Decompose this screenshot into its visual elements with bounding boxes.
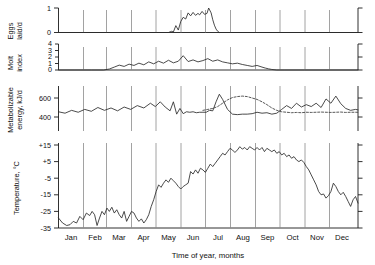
month-label-may: May (161, 233, 176, 242)
panel-energy: 600 400 (39, 86, 363, 131)
energy-ticklabel-400: 400 (39, 113, 51, 122)
molt-ticklabel-0: 0 (48, 65, 52, 74)
month-label-dec: Dec (335, 233, 349, 242)
panel-temperature: +15 +5 -5 -15 -25 -35 (39, 141, 363, 233)
temperature-ticklabel-minus25: -25 (41, 207, 51, 216)
month-label-jul: Jul (213, 233, 223, 242)
x-axis-title: Time of year, months (172, 251, 245, 260)
energy-ylabel-line1: Metabolizable (6, 87, 15, 133)
temperature-left-ticks (54, 145, 59, 228)
panel-temperature-ylabel: Temperature, °C (12, 160, 21, 215)
eggs-ylabel-line1: Eggs (6, 22, 15, 39)
eggs-data-series (59, 8, 359, 33)
figure-container: Eggs laid/d Molt index Metabolizable ene… (0, 0, 375, 265)
month-label-nov: Nov (310, 233, 324, 242)
temperature-ticklabel-5: +5 (43, 157, 51, 166)
panel-eggs-ylabel: Eggs laid/d (6, 22, 24, 40)
temperature-data-series (59, 147, 359, 226)
temperature-gridlines (84, 143, 330, 228)
molt-ylabel-line1: Molt (6, 56, 15, 70)
multi-panel-timeseries-chart: Eggs laid/d Molt index Metabolizable ene… (0, 0, 375, 265)
month-label-aug: Aug (236, 233, 250, 242)
x-axis-month-labels: JanFebMarAprMayJunJulAugSepOctNovDec (65, 233, 349, 242)
molt-ylabel-line2: index (15, 54, 24, 72)
eggs-ticklabel-1: 1 (47, 4, 51, 13)
month-label-jan: Jan (65, 233, 78, 242)
temperature-ylabel: Temperature, °C (12, 160, 21, 215)
energy-ylabel-line2: energy, kJ/d (15, 90, 24, 130)
panel-molt-ylabel: Molt index (6, 54, 24, 72)
molt-left-ticks (55, 44, 59, 70)
temperature-ticklabel-15: +15 (39, 141, 51, 150)
eggs-ticklabel-0: 0 (47, 28, 51, 37)
molt-data-series (59, 56, 359, 70)
molt-gridlines (84, 47, 330, 70)
energy-ticklabel-600: 600 (39, 94, 51, 103)
temperature-right-ticks (358, 145, 363, 228)
panel-energy-ylabel: Metabolizable energy, kJ/d (6, 87, 24, 133)
temperature-ticklabel-minus5: -5 (45, 174, 51, 183)
month-label-oct: Oct (286, 233, 299, 242)
energy-measured-series (59, 94, 359, 114)
temperature-ticklabel-minus35: -35 (41, 224, 51, 233)
month-label-feb: Feb (88, 233, 102, 242)
month-label-sep: Sep (261, 233, 276, 242)
month-label-apr: Apr (137, 233, 150, 242)
panel-molt: 4 3 2 1 0 (48, 39, 363, 74)
panel-eggs: 1 0 (47, 4, 363, 37)
temperature-ticklabel-minus15: -15 (41, 190, 51, 199)
eggs-ylabel-line2: laid/d (15, 22, 24, 40)
month-label-jun: Jun (187, 233, 200, 242)
month-label-mar: Mar (112, 233, 126, 242)
molt-right-ticks (358, 44, 363, 70)
energy-gridlines (84, 86, 330, 131)
